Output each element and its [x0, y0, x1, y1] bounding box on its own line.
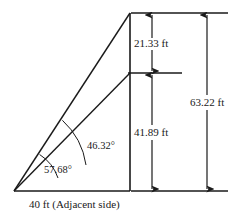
label-lower-segment: 41.89 ft [134, 127, 168, 138]
hypotenuse-lower [14, 73, 130, 191]
hypotenuse-upper [14, 13, 130, 191]
label-lower-angle: 57.68° [44, 165, 72, 176]
label-upper-angle: 46.32° [87, 141, 115, 152]
label-base: 40 ft (Adjacent side) [29, 199, 120, 210]
label-upper-segment: 21.33 ft [134, 38, 168, 49]
angle-arc-upper [62, 120, 86, 165]
label-total-height: 63.22 ft [190, 97, 224, 108]
diagram-canvas [0, 0, 235, 216]
triangle-diagram: 21.33 ft 41.89 ft 63.22 ft 46.32° 57.68°… [0, 0, 235, 216]
